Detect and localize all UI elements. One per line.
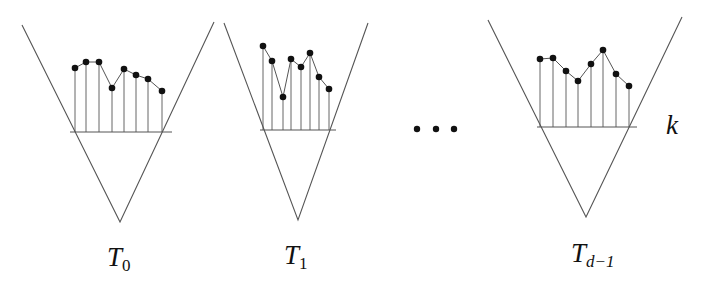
- tree-2-point-3: [575, 78, 582, 85]
- tree-2-point-6: [613, 71, 620, 78]
- tree-2-point-1: [550, 55, 557, 62]
- tree-0-point-6: [145, 76, 152, 83]
- tree-label-t1: T1: [284, 242, 308, 272]
- tree-2-point-5: [600, 47, 607, 54]
- ellipsis-dot-2: [451, 126, 457, 132]
- tree-2-point-0: [537, 56, 544, 63]
- tree-1-point-6: [316, 74, 323, 81]
- tree-1-point-1: [269, 58, 276, 65]
- tree-2-point-2: [563, 68, 570, 75]
- tree-1-point-2: [280, 94, 287, 101]
- tree-0-point-0: [72, 65, 79, 72]
- tree-2-point-4: [588, 61, 595, 68]
- tree-2-point-7: [626, 83, 633, 90]
- tree-0-v-outline: [22, 22, 214, 222]
- tree-1-point-0: [260, 43, 267, 50]
- tree-0-point-5: [133, 72, 140, 79]
- tree-2-v-outline: [488, 17, 682, 217]
- tree-1-point-3: [288, 56, 295, 63]
- tree-label-t0: T0: [107, 244, 131, 274]
- tree-1-point-7: [326, 86, 333, 93]
- tree-0-point-7: [159, 88, 166, 95]
- tree-0-point-2: [96, 59, 103, 66]
- tree-1-point-4: [298, 64, 305, 71]
- tree-label-td-1: Td−1: [571, 240, 615, 270]
- tree-0-point-4: [121, 66, 128, 73]
- tree-1-v-outline: [224, 23, 368, 220]
- tree-0-point-3: [109, 85, 116, 92]
- ellipsis-dot-1: [433, 126, 439, 132]
- tree-0-point-1: [83, 59, 90, 66]
- ellipsis-dot-0: [414, 126, 420, 132]
- subscript-d-minus-1: d−1: [586, 252, 614, 271]
- level-label-k: k: [666, 112, 678, 139]
- tree-1-point-5: [307, 50, 314, 57]
